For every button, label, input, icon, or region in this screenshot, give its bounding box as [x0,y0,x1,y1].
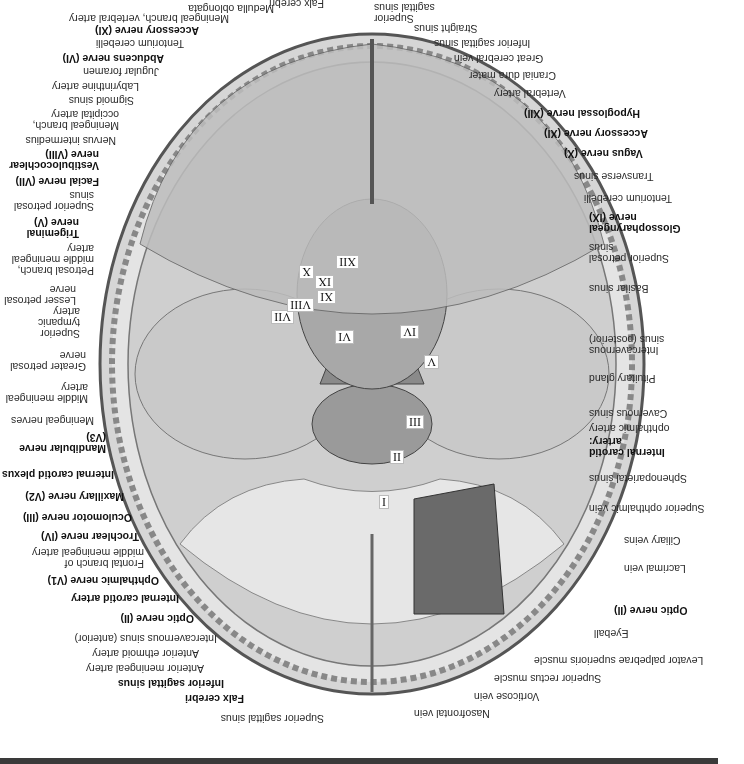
label: Meningeal branch, occipital artery [33,109,119,131]
label: Lacrimal vein [624,563,724,574]
anatomy-figure: Superior sagittal sinus Falx cerebri Inf… [0,0,744,764]
label: Glossopharyngeal nerve (IX) [589,212,739,234]
numeral-III: III [406,415,424,429]
label: Superior sagittal sinus [221,713,324,724]
label: Optic nerve (II) [120,613,194,624]
label: Superior petrosal sinus [589,242,739,264]
label: Mandibular nerve (V3) [0,432,106,454]
label: Vagus nerve (X) [564,148,714,159]
label: Jugular foramen [83,66,159,77]
numeral-IV: IV [400,325,419,339]
label: Ciliary veins [624,535,724,546]
label: Levator palpebrae superioris muscle [534,655,724,666]
label: Petrosal branch, middle meningeal artery [12,243,94,276]
label: Cavernous sinus [589,408,739,419]
numeral-VII: VII [271,310,294,324]
numeral-V: V [424,355,439,369]
label: Inferior sagittal sinus [118,678,224,689]
label: Intercavernous sinus (posterior) [589,334,739,356]
label: Lesser petrosal nerve [4,284,76,306]
label: Superior rectus muscle [494,673,634,684]
label: Internal carotid plexus [2,469,114,480]
label: Optic nerve (II) [614,605,714,616]
label: Maxillary nerve (V2) [25,491,124,502]
label: Eyeball [594,628,654,639]
label: Anterior meningeal artery [86,663,204,674]
label: Vorticose vein [474,691,564,702]
label: Falx cerebri [185,693,244,704]
label: Greater petrosal nerve [10,350,86,372]
label: Ophthalmic nerve (V1) [48,575,159,586]
label: Vestibulocochlear nerve (VIII) [9,149,99,171]
label: Superior tympanic artery [0,306,80,339]
label: Facial nerve (VII) [16,176,99,187]
label: Basilar sinus [589,283,739,294]
label: Tentorium cerebelli [584,193,734,204]
label: Nasofrontal vein [414,708,504,719]
label: Pituitary gland [589,373,739,384]
label: ophthalmic artery [589,423,739,434]
numeral-VI: VI [335,330,354,344]
numeral-XII: XII [336,255,359,269]
label: Sphenoparietal sinus [589,473,739,484]
label: Meningeal nerves [11,415,94,426]
label: Accessory nerve (XI) [544,128,694,139]
label: Internal carotid artery: [589,436,739,458]
label: Abducens nerve (VI) [62,53,164,64]
label: Tentorium cerebelli [96,38,184,49]
label: Nervus intermedius [26,135,116,146]
label: Great cerebral vein [454,53,604,64]
numeral-XI: XI [317,290,336,304]
label: Hypoglossal nerve (XII) [524,108,674,119]
label: Anterior ethmoid artery [92,648,199,659]
numeral-X: X [299,265,314,279]
label: Inferior sagittal sinus [434,38,584,49]
label: Superior ophthalmic vein [589,503,739,514]
numeral-VIII: VIII [287,298,314,312]
numeral-I: I [379,495,389,509]
label: Trochlear nerve (IV) [41,531,139,542]
numeral-IX: IX [315,275,334,289]
label: Labyrinthine artery [52,81,139,92]
label: Frontal branch of middle meningeal arter… [32,547,144,569]
label: Sigmoid sinus [69,95,134,106]
label: Falx cerebri [269,0,324,9]
label: Straight sinus [414,23,564,34]
label: Oculomotor nerve (III) [23,512,132,523]
label: Middle meningeal artery [6,382,88,404]
label: Intercavernous sinus (anterior) [75,633,217,644]
label: Internal carotid artery [71,593,179,604]
label: Accessory nerve (XI) [95,25,199,36]
label: Superior petrosal sinus [14,190,94,212]
label: Cranial dura mater [469,70,619,81]
label: Transverse sinus [574,171,724,182]
label: Vertebral artery [494,88,644,99]
label: Trigeminal nerve (V) [26,217,79,239]
label: Superior sagittal sinus [374,2,474,24]
label: Medulla oblongata [188,3,274,14]
numeral-II: II [390,450,404,464]
